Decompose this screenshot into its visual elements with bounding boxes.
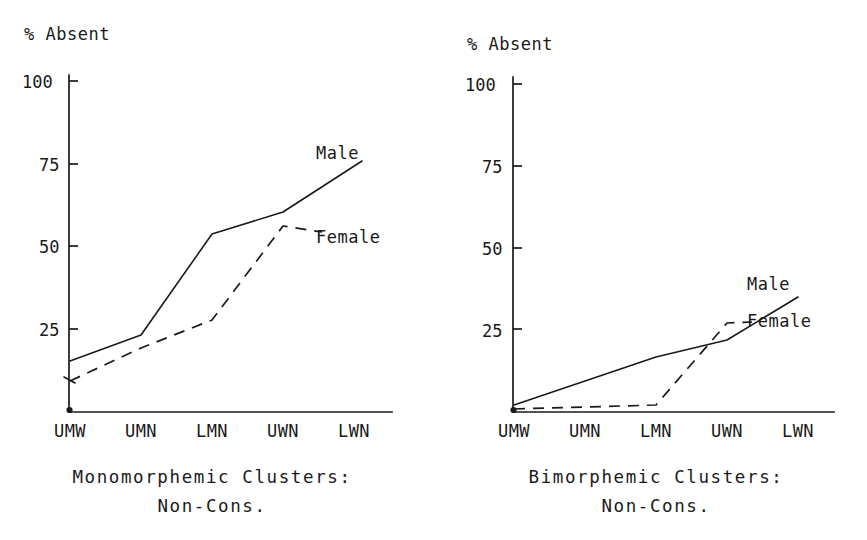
series-label-male: Male <box>747 274 790 294</box>
series-line-female <box>70 226 322 381</box>
y-tick-label-25: 25 <box>39 320 59 340</box>
x-category-label-umn: UMN <box>569 421 601 441</box>
y-tick-label-25: 25 <box>482 321 502 341</box>
y-axis-title: % Absent <box>467 34 553 54</box>
series-label-female: Female <box>747 311 811 331</box>
bimorphemic-chart-svg: % Absent 100 75 50 25 Male Female UMW <box>434 0 867 540</box>
origin-marker <box>66 407 72 413</box>
chart-panel-monomorphemic: % Absent 100 75 50 25 Male Female <box>0 0 433 540</box>
series-label-male: Male <box>316 143 359 163</box>
y-tick-label-75: 75 <box>482 157 502 177</box>
series-label-female: Female <box>316 227 380 247</box>
series-line-male <box>70 161 362 361</box>
x-category-label-lmn: LMN <box>640 421 672 441</box>
monomorphemic-chart-svg: % Absent 100 75 50 25 Male Female <box>0 0 433 540</box>
caption-line-1: Bimorphemic Clusters: <box>529 467 784 487</box>
x-category-label-umw: UMW <box>498 421 530 441</box>
x-category-label-uwn: UWN <box>267 421 299 441</box>
x-category-label-umn: UMN <box>125 421 157 441</box>
x-category-label-uwn: UWN <box>711 421 743 441</box>
x-category-label-lmn: LMN <box>196 421 228 441</box>
caption-line-2: Non-Cons. <box>157 496 266 516</box>
chart-panel-bimorphemic: % Absent 100 75 50 25 Male Female UMW <box>434 0 867 540</box>
y-tick-label-75: 75 <box>39 155 59 175</box>
y-tick-label-100: 100 <box>465 75 496 95</box>
y-axis-title: % Absent <box>24 24 110 44</box>
origin-marker <box>510 407 516 413</box>
x-category-label-lwn: LWN <box>338 421 370 441</box>
figure-root: % Absent 100 75 50 25 Male Female <box>0 0 867 540</box>
caption-line-2: Non-Cons. <box>601 496 710 516</box>
y-tick-label-50: 50 <box>39 237 59 257</box>
y-tick-label-50: 50 <box>482 239 502 259</box>
y-tick-label-100: 100 <box>22 72 53 92</box>
x-category-label-umw: UMW <box>54 421 86 441</box>
caption-line-1: Monomorphemic Clusters: <box>72 467 351 487</box>
x-category-label-lwn: LWN <box>782 421 814 441</box>
